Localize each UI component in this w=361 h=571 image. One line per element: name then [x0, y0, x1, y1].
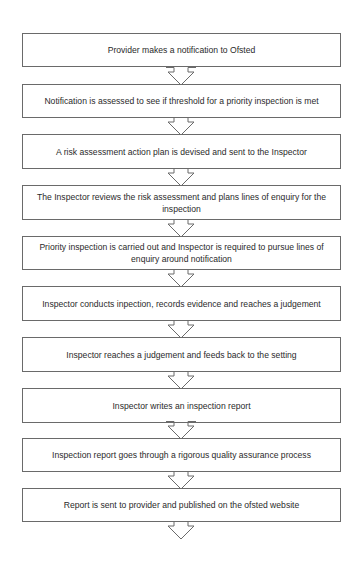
step-5-box: Priority inspection is carried out and I…: [22, 236, 341, 270]
step-7-box: Inspector reaches a judgement and feeds …: [22, 337, 341, 372]
step-1-box: Provider makes a notification to Ofsted: [22, 33, 341, 67]
step-3-box: A risk assessment action plan is devised…: [22, 134, 341, 169]
step-6-box: Inspector conducts inpection, records ev…: [22, 286, 341, 321]
step-10-box: Report is sent to provider and published…: [22, 488, 341, 522]
step-4-box: The Inspector reviews the risk assessmen…: [22, 185, 341, 220]
step-6-text: Inspector conducts inpection, records ev…: [42, 298, 321, 310]
step-4-text: The Inspector reviews the risk assessmen…: [33, 191, 330, 215]
step-8-box: Inspector writes an inspection report: [22, 388, 341, 423]
step-3-text: A risk assessment action plan is devised…: [56, 146, 307, 158]
step-9-box: Inspection report goes through a rigorou…: [22, 438, 341, 472]
step-2-text: Notification is assessed to see if thres…: [44, 95, 318, 107]
step-8-text: Inspector writes an inspection report: [112, 400, 250, 412]
step-7-text: Inspector reaches a judgement and feeds …: [66, 349, 296, 361]
step-10-text: Report is sent to provider and published…: [64, 499, 300, 511]
step-5-text: Priority inspection is carried out and I…: [33, 241, 330, 265]
down-arrow-icon: [166, 521, 196, 540]
step-9-text: Inspection report goes through a rigorou…: [52, 449, 311, 461]
step-1-text: Provider makes a notification to Ofsted: [108, 44, 256, 56]
step-2-box: Notification is assessed to see if thres…: [22, 84, 341, 118]
